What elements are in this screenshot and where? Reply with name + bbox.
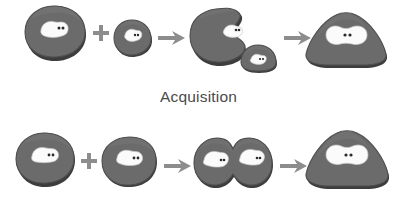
nucleus-patch-merged: [326, 26, 367, 45]
blob-engulfed-cell: [240, 42, 280, 74]
blob-cell-a: [14, 130, 80, 190]
figure-canvas: Acquisition: [0, 0, 397, 203]
row-caption-acquisition: Acquisition: [0, 88, 397, 106]
operator-arrow-right-icon: [158, 30, 186, 46]
nucleus-patch: [41, 21, 68, 37]
operator-plus-icon: [92, 24, 110, 42]
blob-cell-b: [100, 134, 162, 190]
blob-merged-cell: [304, 10, 390, 70]
operator-arrow-right-icon: [164, 158, 192, 174]
nucleus-patch-merged: [326, 145, 368, 165]
diagram-row-fusion: [0, 120, 397, 200]
blob-small-cell: [112, 16, 156, 60]
nucleus-patch-right: [239, 149, 264, 165]
diagram-row-acquisition: [0, 4, 397, 84]
operator-plus-icon: [80, 152, 98, 170]
nucleus-patch: [223, 25, 242, 37]
nucleus-patch: [32, 147, 59, 162]
nucleus-patch: [117, 150, 143, 165]
nucleus-patch: [250, 54, 266, 64]
blob-large-cell: [22, 4, 90, 62]
nucleus-patch-left: [203, 151, 228, 167]
blob-merged-cell: [304, 128, 392, 192]
blob-fusing-pair: [192, 132, 276, 192]
nucleus-patch: [125, 29, 142, 41]
